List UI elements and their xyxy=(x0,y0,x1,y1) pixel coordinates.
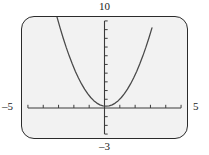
graphing-calculator-figure: 10 –3 –5 5 xyxy=(0,0,209,155)
plot-area xyxy=(22,17,187,138)
x-max-label: 5 xyxy=(193,101,199,112)
y-max-label: 10 xyxy=(0,1,209,12)
calculator-viewing-window xyxy=(21,16,188,139)
y-min-label: –3 xyxy=(0,141,209,152)
x-min-label: –5 xyxy=(2,101,13,112)
